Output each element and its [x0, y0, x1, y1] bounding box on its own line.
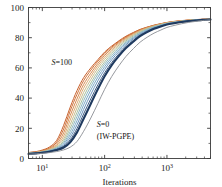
x-tick-label: 103 [161, 163, 173, 173]
x-axis-title: Iterations [103, 177, 137, 187]
y-tick-label: 100 [11, 3, 25, 13]
iwpgpe-label: (IW-PGPE) [97, 132, 135, 141]
y-tick-label: 0 [20, 154, 25, 164]
y-tick-label: 60 [15, 63, 25, 73]
chart-svg: 020406080100101102103 S=100S=0(IW-PGPE) … [0, 0, 222, 187]
y-tick-label: 80 [15, 33, 25, 43]
y-tick-label: 20 [15, 124, 25, 134]
s100-label: S=100 [51, 58, 72, 67]
chart-figure: 020406080100101102103 S=100S=0(IW-PGPE) … [0, 0, 222, 187]
s0-label: S=0 [97, 120, 110, 129]
y-tick-label: 40 [15, 93, 25, 103]
x-tick-label: 102 [99, 163, 111, 173]
x-tick-label: 101 [36, 163, 48, 173]
